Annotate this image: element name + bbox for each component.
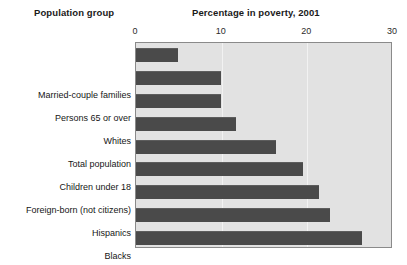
- bar: [136, 48, 178, 62]
- category-label: Persons 65 or over: [0, 113, 131, 123]
- x-tick-10: 10: [216, 26, 226, 36]
- bar: [136, 162, 303, 176]
- category-label: Foreign-born (not citizens): [0, 205, 131, 215]
- bar: [136, 94, 221, 108]
- category-label: Children under 18: [0, 182, 131, 192]
- poverty-bar-chart: Population group Percentage in poverty, …: [0, 0, 407, 265]
- x-tick-0: 0: [132, 26, 137, 36]
- category-label: Total population: [0, 159, 131, 169]
- bar: [136, 117, 236, 131]
- category-axis-labels: Married-couple familiesPersons 65 or ove…: [0, 42, 131, 248]
- x-axis-tick-labels: 0102030: [0, 26, 407, 40]
- plot-area: [135, 42, 392, 248]
- bar: [136, 208, 330, 222]
- population-group-header: Population group: [34, 7, 114, 18]
- bars-layer: [136, 43, 391, 247]
- category-label: Whites: [0, 136, 131, 146]
- chart-title: Percentage in poverty, 2001: [192, 7, 320, 18]
- bar: [136, 185, 319, 199]
- category-label: Married-couple families: [0, 90, 131, 100]
- category-label: Hispanics: [0, 228, 131, 238]
- bar: [136, 140, 276, 154]
- category-label: Blacks: [0, 251, 131, 261]
- x-tick-30: 30: [387, 26, 397, 36]
- x-tick-20: 20: [301, 26, 311, 36]
- bar: [136, 231, 362, 245]
- bar: [136, 71, 221, 85]
